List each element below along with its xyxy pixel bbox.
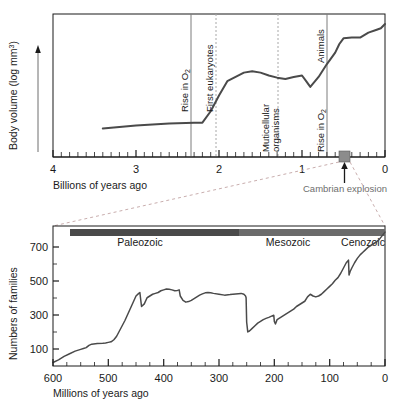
era-bar-mesozoic — [239, 229, 344, 236]
event-label-first-eukaryotes: First eukaryotes — [204, 44, 215, 112]
family-diversity-curve — [53, 232, 385, 362]
bottom-ytick-300: 300 — [30, 309, 48, 321]
cambrian-marker-box — [339, 151, 350, 162]
bottom-ytick-500: 500 — [30, 275, 48, 287]
bottom-y-axis-title: Numbers of families — [7, 267, 19, 360]
bottom-y-minor-ticks — [53, 264, 57, 332]
bottom-xtick-300: 300 — [210, 372, 228, 384]
bottom-xtick-0: 0 — [382, 372, 388, 384]
cambrian-arrow-icon — [341, 162, 348, 183]
era-label-cenozoic: Cenozoic — [341, 236, 385, 248]
bottom-x-major-ticks — [53, 359, 385, 366]
top-x-axis-title: Billions of years ago — [53, 179, 147, 191]
bottom-xtick-200: 200 — [265, 372, 283, 384]
connector-right — [350, 162, 385, 226]
era-bar-paleozoic — [70, 229, 239, 236]
era-label-paleozoic: Paleozoic — [117, 236, 163, 248]
bottom-plot-frame — [53, 226, 385, 366]
bottom-ytick-100: 100 — [30, 343, 48, 355]
event-label-multicellular-organisms-line2: organisms — [270, 108, 281, 152]
connector-left — [53, 162, 339, 226]
top-xtick-4: 4 — [50, 163, 56, 175]
figure-container: 4 3 2 1 0 Billions of years ago Cambrian… — [0, 0, 393, 406]
bottom-xtick-500: 500 — [99, 372, 117, 384]
bottom-xtick-400: 400 — [155, 372, 173, 384]
bottom-panel: Paleozoic Mesozoic Cenozoic 100 300 500 … — [7, 226, 388, 399]
bottom-xtick-600: 600 — [44, 372, 62, 384]
top-xtick-0: 0 — [382, 163, 388, 175]
top-y-axis-title-group: Body volume (log mm3) — [7, 41, 41, 152]
event-label-rise-in-o2-first: Rise in O2 — [179, 69, 191, 112]
top-xtick-1: 1 — [299, 163, 305, 175]
top-xtick-3: 3 — [133, 163, 139, 175]
up-arrow-icon — [35, 45, 41, 53]
top-plot-frame — [53, 14, 385, 157]
top-panel: 4 3 2 1 0 Billions of years ago Cambrian… — [7, 14, 388, 194]
era-label-mesozoic: Mesozoic — [266, 236, 310, 248]
event-label-rise-in-o2-second: Rise in O2 — [315, 109, 327, 152]
figure-svg: 4 3 2 1 0 Billions of years ago Cambrian… — [0, 0, 393, 406]
era-bar-cenozoic — [344, 229, 385, 236]
bottom-x-axis-title: Millions of years ago — [53, 387, 149, 399]
top-xtick-2: 2 — [216, 163, 222, 175]
top-y-axis-title: Body volume (log mm3) — [7, 41, 19, 150]
bottom-ytick-700: 700 — [30, 241, 48, 253]
body-volume-curve — [103, 24, 385, 128]
event-label-animals: Animals — [315, 29, 326, 63]
bottom-xtick-100: 100 — [321, 372, 339, 384]
cambrian-explosion-label: Cambrian explosion — [303, 183, 387, 194]
